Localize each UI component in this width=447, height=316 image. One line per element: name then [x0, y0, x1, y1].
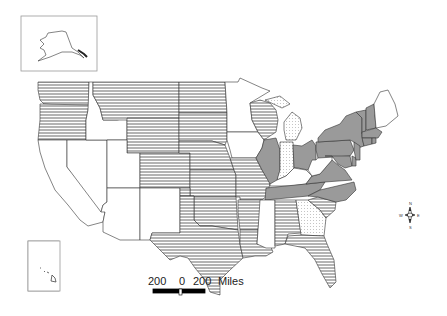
scale-unit-label: Miles — [218, 275, 244, 287]
state-fl — [285, 235, 336, 288]
state-wa — [38, 82, 89, 105]
state-sd — [179, 113, 227, 145]
scale-bar: 200 0 200 Miles — [148, 275, 244, 295]
compass-e: E — [417, 213, 420, 218]
state-or — [38, 104, 89, 140]
scale-center-label: 0 — [179, 275, 185, 287]
scale-right-label: 200 — [193, 275, 211, 287]
alaska-inset — [21, 16, 97, 71]
scale-left-label: 200 — [148, 275, 166, 287]
state-me — [374, 90, 398, 128]
state-nm — [140, 188, 180, 240]
state-mt — [93, 82, 179, 120]
compass-w: W — [399, 213, 403, 218]
states — [38, 78, 398, 295]
us-choropleth-map: 200 0 200 Miles N S E W — [0, 0, 447, 316]
state-nd — [179, 82, 227, 113]
state-ks — [190, 170, 236, 197]
state-pa — [316, 140, 354, 158]
state-co — [140, 153, 190, 188]
state-wy — [127, 118, 179, 153]
compass-n: N — [409, 201, 412, 206]
state-az — [101, 188, 140, 240]
compass-rose: N S E W — [399, 201, 420, 230]
compass-s: S — [409, 225, 412, 230]
state-ms — [257, 200, 275, 248]
hawaii-inset — [28, 241, 60, 291]
state-ri — [372, 138, 376, 144]
state-ct — [362, 138, 372, 146]
